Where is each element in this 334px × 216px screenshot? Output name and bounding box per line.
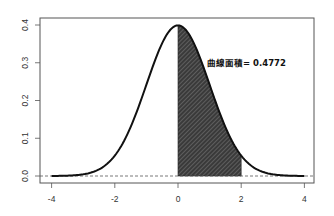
shaded-area-0-to-2: [178, 25, 241, 176]
y-axis: 0.00.10.20.30.4: [20, 19, 40, 182]
x-tick-label: 2: [239, 194, 244, 204]
x-tick-label: -4: [48, 194, 56, 204]
area-annotation: 曲線面積= 0.4772: [207, 58, 286, 68]
x-tick-label: 4: [302, 194, 307, 204]
y-tick-label: 0.1: [20, 132, 30, 144]
y-tick-label: 0.2: [20, 94, 30, 106]
x-tick-label: 0: [176, 194, 181, 204]
x-tick-label: -2: [111, 194, 119, 204]
plot-frame: [40, 18, 314, 183]
y-tick-label: 0.0: [20, 170, 30, 182]
normal-distribution-chart: 0.00.10.20.30.4 -4-2024 曲線面積= 0.4772: [0, 0, 334, 216]
y-tick-label: 0.4: [20, 19, 30, 31]
y-tick-label: 0.3: [20, 57, 30, 69]
x-axis: -4-2024: [48, 183, 307, 204]
